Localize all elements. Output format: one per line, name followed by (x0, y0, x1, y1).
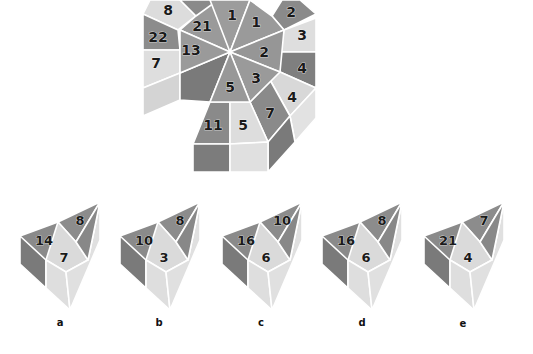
label-outer-right-lower: 4 (287, 89, 297, 105)
option-a-front-value: 7 (59, 250, 68, 265)
label-outer-bottom-left: 11 (203, 117, 222, 133)
label-center-top: 1 (227, 7, 237, 23)
option-a-right-value: 8 (75, 213, 84, 228)
option-a[interactable]: 14 8 7 (20, 202, 100, 310)
outer-face-front-left (193, 144, 230, 172)
label-outer-bottom-center: 5 (238, 117, 248, 133)
label-center-bottom: 5 (225, 79, 235, 95)
option-a-left-value: 14 (35, 233, 53, 248)
label-outer-top-right: 2 (286, 4, 296, 20)
option-e-right-value: 7 (479, 213, 488, 228)
option-b-front-value: 3 (159, 250, 168, 265)
option-b-label[interactable]: b (155, 317, 162, 328)
option-c-right-value: 10 (273, 213, 291, 228)
option-d-right-value: 8 (377, 213, 386, 228)
label-outer-left: 7 (151, 55, 161, 71)
label-center-right: 2 (259, 44, 269, 60)
label-outer-left-upper: 22 (148, 29, 167, 45)
option-a-label[interactable]: a (57, 317, 64, 328)
option-e[interactable]: 21 7 4 (424, 202, 504, 310)
option-d-left-value: 16 (337, 233, 355, 248)
option-e-label[interactable]: e (460, 318, 467, 329)
main-figure: 8 22 7 21 1 1 2 3 5 13 2 3 4 4 7 11 5 (143, 0, 316, 172)
option-b[interactable]: 10 8 3 (120, 202, 200, 310)
puzzle-canvas: 8 22 7 21 1 1 2 3 5 13 2 3 4 4 7 11 5 14… (0, 0, 533, 354)
option-c-left-value: 16 (237, 233, 255, 248)
option-e-front-value: 4 (463, 250, 472, 265)
label-outer-right-upper: 3 (297, 27, 307, 43)
outer-face-front-right (230, 142, 268, 172)
option-c[interactable]: 16 10 6 (222, 202, 302, 310)
option-e-left-value: 21 (439, 233, 457, 248)
label-center-top-right: 1 (251, 14, 261, 30)
option-b-left-value: 10 (135, 233, 153, 248)
option-c-label[interactable]: c (258, 317, 264, 328)
label-center-left: 13 (181, 42, 200, 58)
label-center-bottom-right: 3 (251, 70, 261, 86)
option-c-front-value: 6 (261, 250, 270, 265)
label-outer-right: 4 (297, 60, 307, 76)
label-outer-top-left: 8 (163, 2, 173, 18)
label-center-top-left: 21 (192, 18, 211, 34)
option-d[interactable]: 16 8 6 (322, 202, 402, 310)
option-b-right-value: 8 (175, 213, 184, 228)
label-outer-bottom-right: 7 (265, 105, 275, 121)
option-d-label[interactable]: d (358, 317, 365, 328)
option-d-front-value: 6 (361, 250, 370, 265)
